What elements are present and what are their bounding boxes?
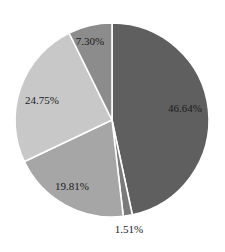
pie-chart: 46.64% 1.51% 19.81% 24.75% 7.30%	[0, 0, 225, 252]
slice-label-1-51: 1.51%	[115, 223, 143, 235]
slice-label-24-75: 24.75%	[25, 94, 59, 106]
pie-slices	[15, 23, 209, 217]
slice-label-19-81: 19.81%	[55, 180, 89, 192]
slice-label-46-64: 46.64%	[168, 102, 202, 114]
slice-label-7-30: 7.30%	[76, 35, 104, 47]
